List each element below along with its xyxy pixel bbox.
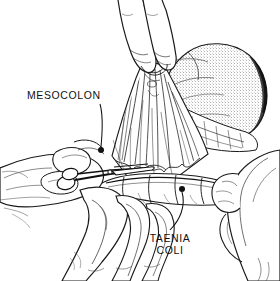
mesocolon-pointer-dot	[98, 147, 104, 153]
surgical-illustration-figure: MESOCOLON TAENIACOLI	[0, 0, 280, 281]
label-taenia-line1: TAENIA	[150, 232, 191, 244]
label-taenia-coli: TAENIACOLI	[137, 233, 203, 256]
label-mesocolon: MESOCOLON	[27, 90, 101, 102]
label-taenia-line2: COLI	[137, 245, 203, 257]
taenia-coli-pointer-dot	[179, 186, 185, 192]
